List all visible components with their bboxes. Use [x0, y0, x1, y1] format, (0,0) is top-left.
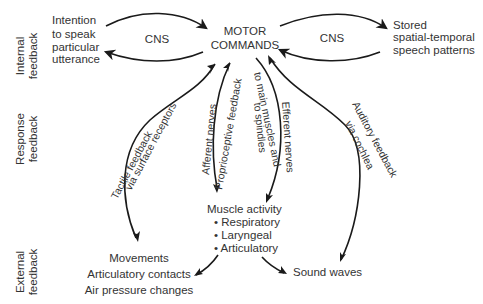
side-label-response: Response feedback	[14, 113, 39, 165]
side-label-internal: Internal feedback	[14, 32, 39, 79]
svg-text:External: External	[14, 251, 26, 293]
motor-speech-feedback-diagram: Internal feedback Response feedback Exte…	[0, 0, 483, 304]
svg-text:feedback: feedback	[27, 248, 39, 295]
arrow-motor-to-intention	[106, 52, 203, 61]
svg-text:to speak: to speak	[52, 28, 96, 40]
svg-text:feedback: feedback	[27, 32, 39, 79]
label-via-surface-receptors: via surface receptors	[122, 100, 178, 192]
arrowhead-auditory-bottom	[340, 252, 346, 262]
node-sound-waves: Sound waves	[293, 266, 362, 278]
svg-text:utterance: utterance	[52, 53, 100, 65]
svg-text:Muscle activity: Muscle activity	[207, 203, 282, 215]
svg-text:speech patterns: speech patterns	[393, 44, 475, 56]
svg-text:MOTOR: MOTOR	[224, 25, 267, 37]
node-stored-patterns: Stored spatial-temporal speech patterns	[393, 19, 475, 56]
svg-text:• Articulatory: • Articulatory	[214, 242, 278, 254]
side-label-external: External feedback	[14, 248, 39, 295]
arrow-motor-to-stored	[280, 14, 386, 28]
diagram-canvas: Internal feedback Response feedback Exte…	[0, 0, 483, 304]
svg-text:Air pressure changes: Air pressure changes	[85, 284, 194, 296]
arrow-stored-to-motor	[280, 50, 380, 61]
svg-text:Movements: Movements	[109, 252, 169, 264]
arrowhead-auditory-top	[268, 55, 276, 65]
svg-text:• Respiratory: • Respiratory	[214, 216, 280, 228]
label-proprioceptive-feedback: Proprioceptive feedback	[212, 77, 244, 191]
arrowhead-tactile-top	[207, 64, 215, 74]
svg-text:COMMANDS: COMMANDS	[211, 39, 280, 51]
node-movements: Movements Articulatory contacts Air pres…	[85, 252, 194, 296]
node-intention: Intention to speak particular utterance	[52, 14, 100, 65]
cns-label-left: CNS	[145, 33, 170, 45]
svg-text:feedback: feedback	[27, 115, 39, 162]
svg-text:Response: Response	[14, 113, 26, 165]
svg-text:Stored: Stored	[393, 19, 427, 31]
arrow-intention-to-motor	[106, 13, 206, 28]
node-motor-commands: MOTOR COMMANDS	[211, 25, 280, 51]
svg-text:Internal: Internal	[14, 37, 26, 75]
svg-text:Articulatory contacts: Articulatory contacts	[87, 268, 191, 280]
svg-text:spatial-temporal: spatial-temporal	[393, 31, 475, 43]
svg-text:• Laryngeal: • Laryngeal	[214, 229, 272, 241]
node-muscle-activity: Muscle activity • Respiratory • Laryngea…	[207, 203, 282, 254]
svg-text:particular: particular	[52, 41, 99, 53]
svg-text:Intention: Intention	[52, 14, 96, 26]
cns-label-right: CNS	[320, 32, 345, 44]
